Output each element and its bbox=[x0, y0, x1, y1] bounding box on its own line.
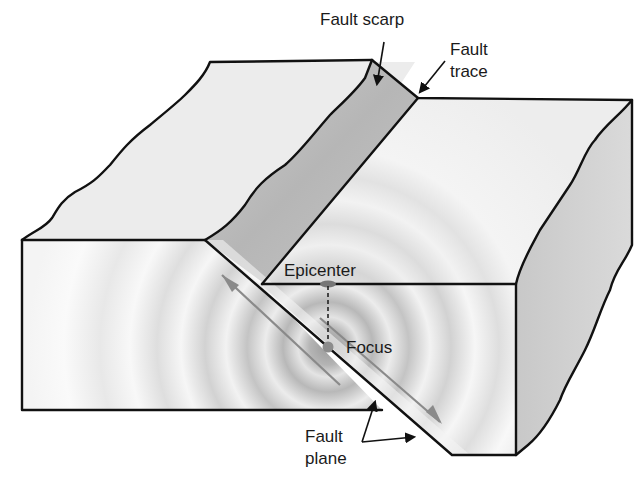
label-fault-trace-line1: Fault bbox=[450, 40, 488, 59]
label-fault-trace-line2: trace bbox=[450, 62, 488, 81]
label-fault-plane-line1: Fault bbox=[305, 427, 343, 446]
label-fault-plane-line2: plane bbox=[305, 449, 347, 468]
label-focus: Focus bbox=[346, 338, 392, 357]
label-epicenter: Epicenter bbox=[284, 261, 356, 280]
fault-block-diagram: Fault scarp Fault trace Epicenter Focus … bbox=[0, 0, 642, 482]
focus-marker bbox=[323, 342, 334, 353]
label-fault-scarp: Fault scarp bbox=[320, 10, 404, 29]
